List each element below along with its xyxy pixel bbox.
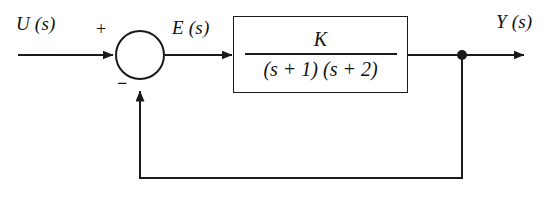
transfer-function-block: K (s + 1) (s + 2) xyxy=(233,16,408,93)
transfer-function-numerator: K xyxy=(245,29,397,53)
summing-junction-plus-sign: + xyxy=(96,20,106,38)
summing-junction-minus-sign: − xyxy=(117,74,127,92)
block-diagram-canvas: U (s) E (s) Y (s) + − K (s + 1) (s + 2) xyxy=(0,0,553,199)
summing-junction-circle xyxy=(116,31,164,79)
output-signal-label: Y (s) xyxy=(496,12,532,31)
transfer-function-denominator: (s + 1) (s + 2) xyxy=(245,55,397,80)
input-signal-label: U (s) xyxy=(16,14,56,33)
transfer-function-fraction: K (s + 1) (s + 2) xyxy=(245,29,397,80)
error-signal-label: E (s) xyxy=(172,18,209,37)
